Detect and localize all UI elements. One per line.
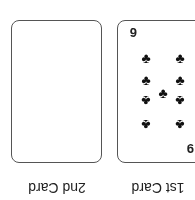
club-pip-icon: ♣ [173,73,187,87]
club-pip-icon: ♣ [139,73,153,87]
club-pip-icon: ♣ [139,51,153,65]
club-pip-icon: ♣ [173,94,187,108]
club-pip-icon: ♣ [173,118,187,132]
club-pip-icon: ♣ [139,118,153,132]
second-card-label: 2nd Card [22,180,92,196]
rotated-canvas: 9 9 ♣ ♣ ♣ ♣ ♣ ♣ ♣ ♣ ♣ 1st Card 2nd Card [0,0,195,200]
club-pip-icon: ♣ [173,51,187,65]
card-rank-bottom: 9 [130,25,137,40]
first-card-label: 1st Card [123,180,193,196]
second-card [11,20,102,163]
card-rank-top: 9 [187,141,194,156]
club-pip-icon: ♣ [139,94,153,108]
club-pip-icon: ♣ [156,86,170,100]
